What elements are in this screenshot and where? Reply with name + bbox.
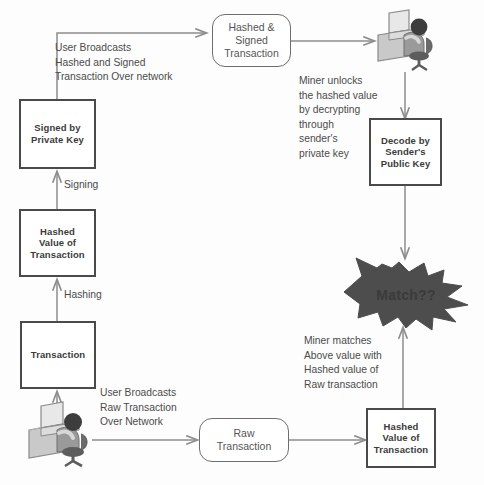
node-hashed-value-of-raw-transaction-label: Hashed Value of Transaction (374, 421, 428, 456)
node-signed-by-private-key-label: Signed by Private Key (31, 122, 84, 145)
user-at-computer-icon (23, 400, 95, 468)
node-hashed-value-of-transaction[interactable]: Hashed Value of Transaction (19, 209, 96, 277)
node-transaction[interactable]: Transaction (20, 321, 96, 389)
node-transaction-label: Transaction (31, 349, 85, 361)
caption-miner-unlocks: Miner unlocks the hashed value by decryp… (299, 74, 377, 162)
caption-user-broadcasts-signed: User Broadcasts Hashed and Signed Transa… (55, 41, 173, 85)
node-hashed-value-of-raw-transaction[interactable]: Hashed Value of Transaction (366, 408, 436, 468)
diagram-canvas: Signed by Private Key Hashed Value of Tr… (0, 0, 484, 485)
node-signed-by-private-key[interactable]: Signed by Private Key (19, 99, 96, 169)
caption-hashing: Hashing (64, 288, 102, 303)
caption-miner-matches: Miner matches Above value with Hashed va… (304, 334, 382, 392)
node-raw-transaction-label: Raw Transaction (217, 427, 271, 453)
miner-at-computer-icon (374, 8, 440, 72)
match-burst[interactable]: Match?? (344, 262, 468, 328)
node-hashed-and-signed-transaction-label: Hashed & Signed Transaction (224, 21, 278, 59)
caption-signing: Signing (64, 178, 98, 193)
node-raw-transaction[interactable]: Raw Transaction (199, 418, 289, 462)
match-burst-label: Match?? (344, 262, 468, 328)
caption-user-broadcasts-raw: User Broadcasts Raw Transaction Over Net… (100, 386, 177, 430)
node-decode-by-senders-public-key[interactable]: Decode by Sender's Public Key (369, 118, 442, 186)
node-hashed-value-of-transaction-label: Hashed Value of Transaction (30, 226, 84, 261)
node-decode-by-senders-public-key-label: Decode by Sender's Public Key (381, 135, 431, 170)
node-hashed-and-signed-transaction[interactable]: Hashed & Signed Transaction (212, 14, 291, 67)
